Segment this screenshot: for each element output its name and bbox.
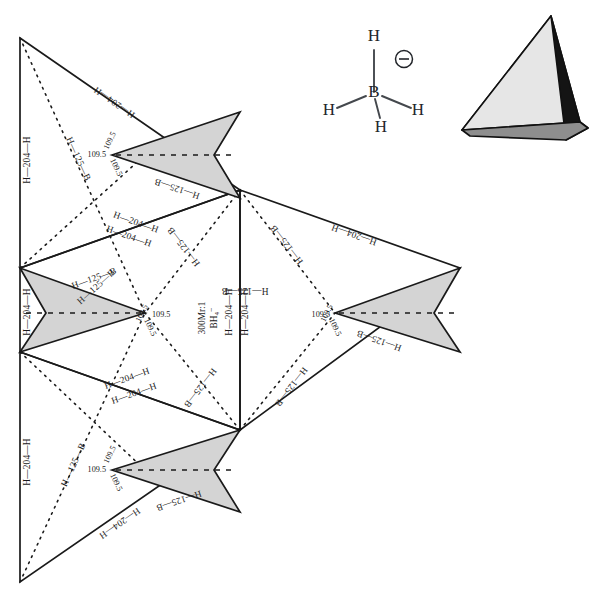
atom-label-hydrogen-bottom: H xyxy=(375,117,387,136)
edge-label-fold: H—125—B xyxy=(165,225,202,268)
angle-label: 109.5 xyxy=(152,310,170,319)
figure-scale-label: 300Mr:1 xyxy=(197,301,207,334)
angle-label: 109.5 xyxy=(88,150,106,159)
angle-label: 109.5 xyxy=(108,472,124,493)
edge-label-fold: H—125—B xyxy=(273,365,310,408)
angle-label: 109.5 xyxy=(142,317,158,338)
figure-canvas: H—204—H H—204—H H—204—H H—204—H H—204—H … xyxy=(0,0,600,600)
edge-label-outer: H—204—H xyxy=(92,85,137,120)
species-label: BH4− xyxy=(207,307,221,329)
edge-label-fold: H—125—B xyxy=(222,286,269,296)
angle-label: 109.5 xyxy=(102,444,118,465)
atom-label-hydrogen-left: H xyxy=(323,100,335,119)
bond-b-h-right xyxy=(382,96,411,108)
bond-b-h-left xyxy=(337,96,366,108)
edge-label-outer: H—204—H xyxy=(330,222,378,247)
tetrahedron-model xyxy=(462,16,588,140)
angle-label: 109.5 xyxy=(88,465,106,474)
atom-label-hydrogen-right: H xyxy=(412,100,424,119)
negative-charge-symbol xyxy=(396,51,413,68)
edge-label-fold: H—125—B xyxy=(268,223,305,266)
edge-label-outer: H—204—H xyxy=(22,438,32,485)
edge-label-fold: H—125—B xyxy=(182,366,219,409)
center-title-block: 300Mr:1 BH4− xyxy=(197,301,221,334)
angle-label: 109.5 xyxy=(108,157,124,178)
edge-label-fold: H—125—B xyxy=(59,441,88,488)
angle-label: 109.5 xyxy=(327,317,343,338)
edge-label-outer: H—204—H xyxy=(22,136,32,183)
edge-label-outer: H—204—H xyxy=(22,288,32,335)
angle-label: 109.5 xyxy=(102,130,118,151)
bond-b-h-bottom xyxy=(375,99,380,118)
atom-label-boron: B xyxy=(368,82,379,101)
lewis-structure-bh4: B H H H H xyxy=(323,26,424,136)
glue-flap-middle-right xyxy=(335,268,460,352)
atom-label-hydrogen-top: H xyxy=(368,26,380,45)
